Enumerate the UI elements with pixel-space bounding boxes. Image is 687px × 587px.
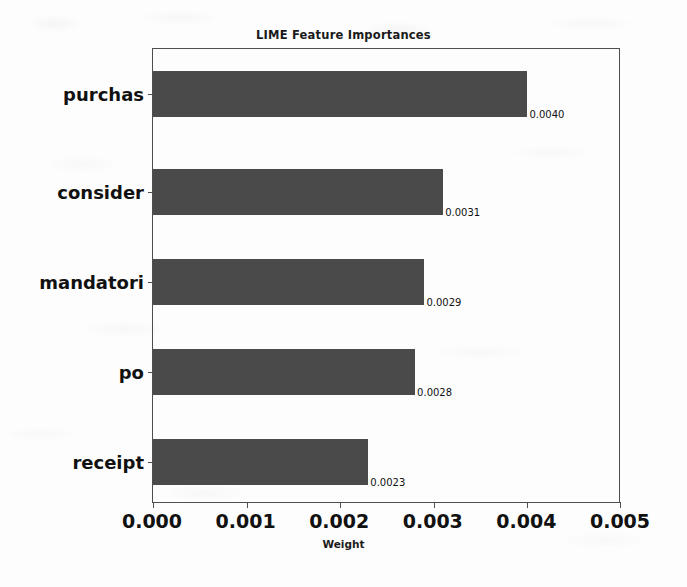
chart-title: LIME Feature Importances [0,28,687,42]
plot-area: 0.0040 0.0031 0.0029 0.0028 0.0023 [152,48,620,503]
bar-mandatori[interactable] [153,259,424,305]
bar-row: 0.0031 [153,169,619,215]
ytick-label-0: purchas [0,86,144,104]
ytick-label-2: mandatori [0,274,144,292]
ytick-label-4: receipt [0,454,144,472]
bar-po[interactable] [153,349,415,395]
xtick-mark-0 [153,502,154,508]
ytick-label-1: consider [0,184,144,202]
xtick-label-0: 0.000 [122,510,182,532]
xtick-mark-4 [527,502,528,508]
bar-row: 0.0023 [153,439,619,485]
x-axis-label: Weight [0,538,687,550]
bar-consider[interactable] [153,169,443,215]
xtick-label-5: 0.005 [590,510,650,532]
bar-purchas[interactable] [153,71,527,117]
bar-row: 0.0029 [153,259,619,305]
xtick-label-1: 0.001 [216,510,276,532]
xtick-mark-5 [620,502,621,508]
chart-page: LIME Feature Importances purchas conside… [0,0,687,587]
bar-row: 0.0040 [153,71,619,117]
bar-value-po: 0.0028 [415,387,452,398]
xtick-label-4: 0.004 [496,510,556,532]
bar-value-receipt: 0.0023 [368,477,405,488]
bar-value-mandatori: 0.0029 [424,297,461,308]
xtick-mark-2 [340,502,341,508]
xtick-label-2: 0.002 [309,510,369,532]
xtick-mark-1 [247,502,248,508]
xtick-mark-3 [434,502,435,508]
bar-value-consider: 0.0031 [443,207,480,218]
bar-row: 0.0028 [153,349,619,395]
ytick-label-3: po [0,364,144,382]
xtick-label-3: 0.003 [403,510,463,532]
bar-value-purchas: 0.0040 [527,109,564,120]
bar-receipt[interactable] [153,439,368,485]
